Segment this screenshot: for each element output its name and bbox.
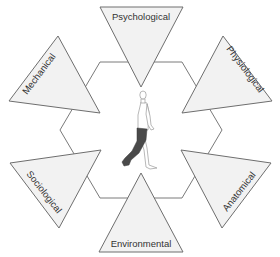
factor-environmental: Environmental: [99, 173, 183, 252]
factor-mechanical: Mechanical: [9, 36, 100, 113]
factor-physiological: Physiological: [182, 36, 272, 113]
factor-psychological: Psychological: [100, 7, 183, 87]
factor-sociological: Sociological: [10, 150, 101, 228]
factor-label: Environmental: [111, 238, 172, 249]
factor-label: Psychological: [112, 11, 170, 22]
factor-anatomical: Anatomical: [181, 150, 271, 228]
walking-person-icon: [122, 91, 157, 169]
factors-diagram: Psychological Physiological Anatomical E…: [0, 0, 280, 257]
